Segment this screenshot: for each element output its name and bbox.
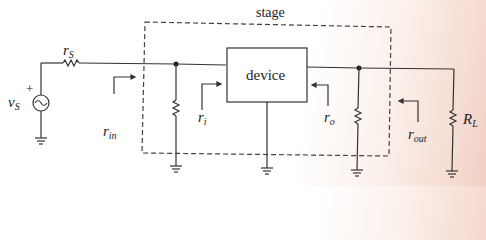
stage-label: stage — [256, 5, 285, 21]
label-rl: RL — [463, 110, 478, 129]
ground-icon — [261, 168, 273, 174]
arrow-ro-icon — [312, 85, 328, 106]
resistor-rs-icon — [63, 60, 79, 66]
arrow-rout-icon — [399, 101, 418, 122]
label-rout: rout — [408, 125, 427, 144]
label-ro: ro — [324, 108, 335, 127]
label-rs: rS — [63, 41, 74, 60]
resistor-input-shunt-icon — [173, 100, 179, 116]
ground-icon — [35, 138, 47, 144]
label-rin: rin — [103, 122, 117, 141]
device-label: device — [246, 67, 285, 84]
arrow-rin-icon — [114, 77, 135, 94]
arrow-ri-icon — [202, 84, 221, 110]
vs-polarity-plus: + — [26, 81, 33, 97]
label-ri: ri — [198, 108, 207, 127]
ground-icon — [446, 171, 458, 177]
ground-icon — [351, 170, 363, 176]
resistor-rl-icon — [450, 110, 456, 126]
circuit-diagram — [0, 0, 486, 186]
ground-icon — [170, 166, 182, 172]
label-vs: vS — [8, 93, 20, 112]
resistor-output-shunt-icon — [355, 108, 361, 124]
